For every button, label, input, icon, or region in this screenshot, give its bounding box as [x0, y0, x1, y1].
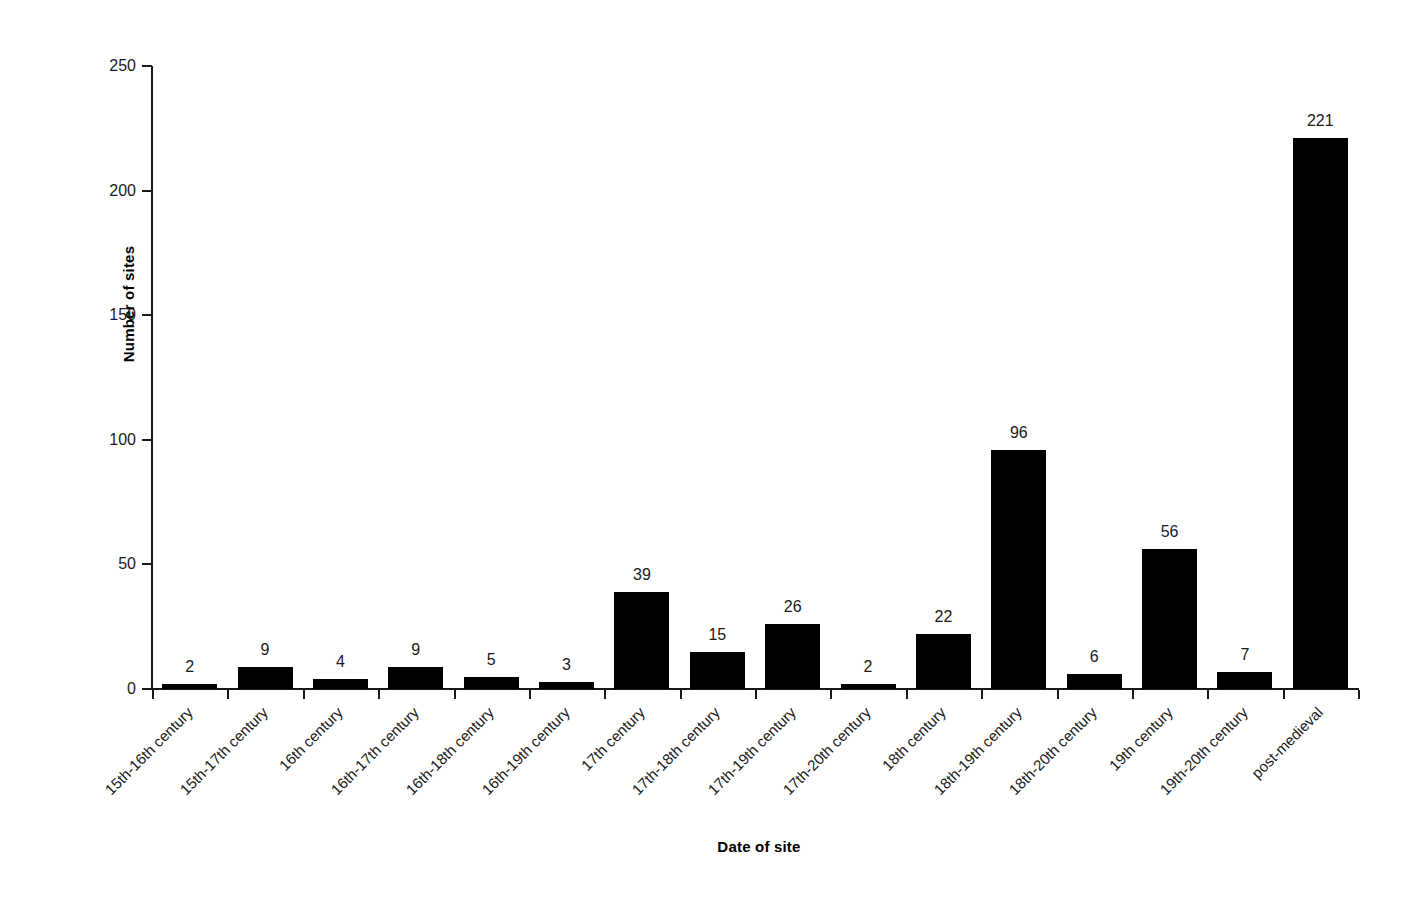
x-axis-category-label: 18th-19th century: [801, 704, 1024, 899]
x-axis-tick: [1207, 690, 1209, 699]
y-axis-tick: [142, 563, 152, 565]
y-axis-tick-label: 100: [88, 432, 136, 448]
y-axis-tick-label: 250: [88, 58, 136, 74]
y-axis-tick: [142, 190, 152, 192]
bar[interactable]: [916, 634, 971, 689]
bar-value-label: 4: [301, 654, 380, 670]
y-axis-tick-label: 50: [88, 556, 136, 572]
bar-value-label: 221: [1281, 113, 1360, 129]
bars-container: 294953391526222966567221: [152, 66, 1358, 689]
bar[interactable]: [1067, 674, 1122, 689]
x-axis-category-label: 17th-19th century: [575, 704, 798, 899]
x-axis-category-label: 16th century: [123, 704, 346, 899]
bar-value-label: 6: [1055, 649, 1134, 665]
bar[interactable]: [690, 652, 745, 689]
x-axis-tick: [152, 690, 154, 699]
x-axis-category-label: 17th-18th century: [500, 704, 723, 899]
x-axis-tick: [1057, 690, 1059, 699]
bar[interactable]: [614, 592, 669, 689]
x-axis-category-label: 16th-18th century: [274, 704, 497, 899]
x-axis-category-label: 18th-20th century: [877, 704, 1100, 899]
bar-value-label: 96: [979, 425, 1058, 441]
x-axis-tick: [906, 690, 908, 699]
y-axis-tick: [142, 688, 152, 690]
x-axis-tick: [604, 690, 606, 699]
bar[interactable]: [539, 682, 594, 689]
bar-value-label: 3: [527, 657, 606, 673]
y-axis-tick: [142, 439, 152, 441]
x-axis-tick: [830, 690, 832, 699]
bar-value-label: 9: [376, 642, 455, 658]
bar[interactable]: [1142, 549, 1197, 689]
bar[interactable]: [991, 450, 1046, 689]
x-axis-title-text: Date of site: [717, 838, 800, 855]
x-axis-category-label: post-medieval: [1103, 704, 1326, 899]
x-axis-tick: [1358, 690, 1360, 699]
y-axis-tick: [142, 314, 152, 316]
bar[interactable]: [313, 679, 368, 689]
x-axis-tick: [378, 690, 380, 699]
x-axis-category-label: 18th century: [726, 704, 949, 899]
x-axis-tick: [227, 690, 229, 699]
y-axis-tick-label: 200: [88, 183, 136, 199]
bar[interactable]: [238, 667, 293, 689]
bar-value-label: 7: [1205, 647, 1284, 663]
x-axis-title: Date of site: [0, 838, 1418, 855]
x-axis-tick: [303, 690, 305, 699]
x-axis-tick: [981, 690, 983, 699]
bar-value-label: 2: [150, 659, 229, 675]
bar-value-label: 39: [602, 567, 681, 583]
bar-value-label: 56: [1130, 524, 1209, 540]
bar-value-label: 22: [904, 609, 983, 625]
bar[interactable]: [1293, 138, 1348, 689]
bar[interactable]: [464, 677, 519, 689]
x-axis-category-label: 17th-20th century: [651, 704, 874, 899]
x-axis-category-label: 17th century: [425, 704, 648, 899]
x-axis-category-label: 15th-17th century: [48, 704, 271, 899]
bar-value-label: 2: [829, 659, 908, 675]
bar-value-label: 5: [452, 652, 531, 668]
x-axis-tick: [454, 690, 456, 699]
x-axis-tick: [1283, 690, 1285, 699]
bar-value-label: 9: [226, 642, 305, 658]
bar-value-label: 26: [753, 599, 832, 615]
y-axis-tick-label: 0: [88, 681, 136, 697]
x-axis-tick: [680, 690, 682, 699]
bar-chart: Number of sites Date of site 05010015020…: [0, 0, 1418, 899]
bar[interactable]: [765, 624, 820, 689]
x-axis-category-label: 15th-16th century: [0, 704, 195, 899]
x-axis-category-label: 19th century: [952, 704, 1175, 899]
bar[interactable]: [1217, 672, 1272, 689]
y-axis-tick: [142, 65, 152, 67]
x-axis-category-label: 16th-17th century: [198, 704, 421, 899]
x-axis-tick: [1132, 690, 1134, 699]
y-axis-tick-label: 150: [88, 307, 136, 323]
bar-value-label: 15: [678, 627, 757, 643]
x-axis-category-label: 16th-19th century: [349, 704, 572, 899]
bar[interactable]: [388, 667, 443, 689]
bar[interactable]: [162, 684, 217, 689]
y-axis-title: Number of sites: [120, 224, 144, 384]
x-axis-tick: [755, 690, 757, 699]
bar[interactable]: [841, 684, 896, 689]
x-axis-tick: [529, 690, 531, 699]
x-axis-category-label: 19th-20th century: [1028, 704, 1251, 899]
